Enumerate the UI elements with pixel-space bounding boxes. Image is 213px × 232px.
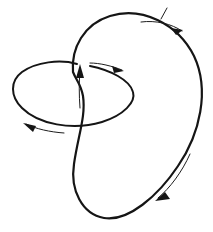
tick-mark-top-right <box>161 8 167 19</box>
knot-diagram-svg: Oriented knotted curve diagram Hand-draw… <box>0 0 213 232</box>
large-loop-path <box>73 13 202 218</box>
arrow-vertical-up-head <box>76 64 84 78</box>
arrow-bottom-right-arc <box>158 154 190 198</box>
figure-canvas: Oriented knotted curve diagram Hand-draw… <box>0 0 213 232</box>
orientation-arrows <box>23 8 190 201</box>
arrow-top-right-head <box>171 28 183 35</box>
arrow-small-loop-top-head <box>112 66 124 73</box>
arrow-small-loop-bottom-head <box>23 123 36 132</box>
arrow-bottom-right <box>155 154 190 201</box>
primary-curves <box>13 13 202 218</box>
